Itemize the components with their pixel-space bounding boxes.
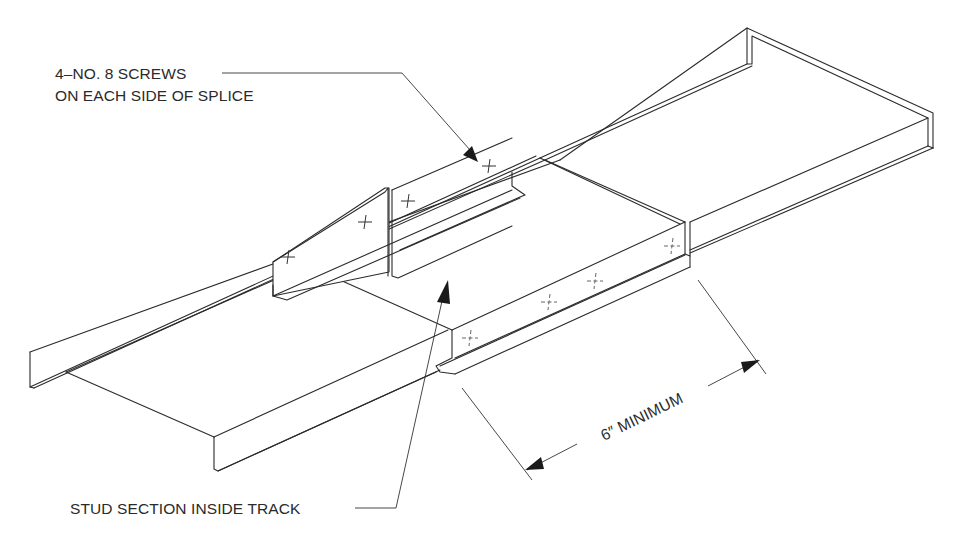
screws-label-line2: ON EACH SIDE OF SPLICE: [55, 87, 254, 104]
dimension-arrow-left-icon: [525, 457, 544, 470]
diagram-canvas: 6″ MINIMUM 4–NO. 8 SCREWS ON EACH SIDE O…: [0, 0, 963, 543]
screw-hidden-icon: [587, 273, 603, 289]
stud-leader: [355, 280, 450, 508]
dimension-label: 6″ MINIMUM: [598, 389, 686, 443]
left-track-section: [30, 156, 560, 471]
screws-label-line1: 4–NO. 8 SCREWS: [55, 65, 186, 82]
arrowhead-icon: [437, 280, 450, 304]
screw-hidden-icon: [664, 238, 680, 254]
screw-hidden-icon: [541, 294, 557, 310]
stud-section-front: [436, 222, 690, 374]
right-track-section: [540, 28, 933, 253]
stud-section-label: STUD SECTION INSIDE TRACK: [70, 500, 301, 517]
screw-icon: [401, 194, 415, 208]
screw-icon: [482, 159, 496, 173]
screws-leader: [222, 73, 478, 162]
dimension-6-minimum: 6″ MINIMUM: [462, 280, 766, 480]
dimension-arrow-right-icon: [741, 360, 760, 373]
screws-hidden: [462, 238, 680, 346]
track-splice-drawing: 6″ MINIMUM 4–NO. 8 SCREWS ON EACH SIDE O…: [0, 0, 963, 543]
screw-hidden-icon: [462, 330, 478, 346]
